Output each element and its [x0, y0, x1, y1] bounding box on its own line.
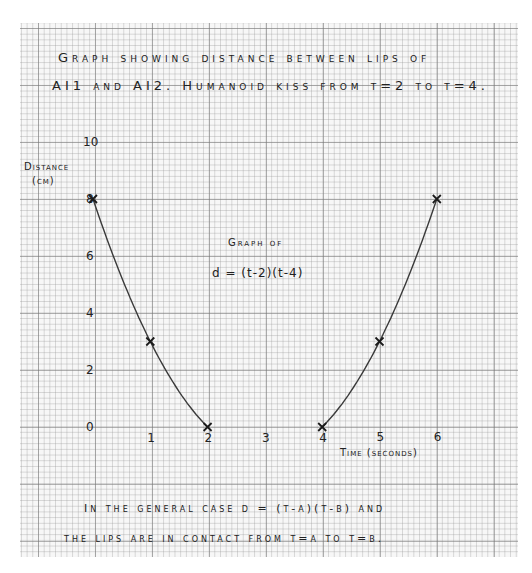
y-tick-label: 6: [86, 249, 94, 263]
chart-title: Graph showing distance between lips of A…: [52, 50, 489, 93]
title-line-2: AI1 and AI2. Humanoid kiss from t=2 to t…: [52, 78, 489, 93]
annotation-line-1: Graph of: [228, 237, 283, 248]
title-line-1: Graph showing distance between lips of: [58, 50, 430, 65]
y-tick-label: 4: [86, 306, 94, 320]
data-series: [93, 199, 437, 427]
data-point-marker: [318, 423, 326, 431]
annotation-line-2: d = (t-2)(t-4): [212, 266, 303, 280]
x-tick-label: 4: [319, 431, 327, 445]
x-tick-label: 5: [377, 430, 385, 444]
y-label-line-1: Distance: [24, 161, 69, 172]
footnote-line-1: In the general case d = (t-a)(t-b) and: [84, 502, 385, 515]
y-tick-label: 10: [83, 135, 98, 149]
chart: Graph showing distance between lips of A…: [0, 0, 532, 573]
series-line-2: [322, 199, 437, 427]
data-point-marker: [376, 338, 384, 346]
footnote: In the general case d = (t-a)(t-b) and t…: [63, 502, 385, 545]
data-markers: [89, 195, 441, 431]
y-axis-label: Distance (cm): [24, 161, 69, 186]
data-point-marker: [204, 423, 212, 431]
x-tick-label: 2: [205, 431, 213, 445]
data-point-marker: [433, 195, 441, 203]
x-tick-label: 1: [147, 431, 155, 445]
x-axis-label: Time (seconds): [339, 447, 418, 458]
y-tick-label: 0: [86, 420, 94, 434]
y-tick-label: 2: [86, 363, 94, 377]
x-tick-label: 3: [262, 431, 270, 445]
y-label-line-2: (cm): [32, 175, 55, 186]
footnote-line-2: the lips are in contact from t=a to t=b.: [63, 532, 384, 545]
series-line-1: [93, 199, 208, 427]
y-tick-labels: 0246810: [83, 135, 98, 434]
x-tick-labels: 123456: [147, 430, 441, 445]
data-point-marker: [146, 338, 154, 346]
x-tick-label: 6: [434, 430, 442, 444]
formula-annotation: Graph of d = (t-2)(t-4): [212, 237, 303, 280]
